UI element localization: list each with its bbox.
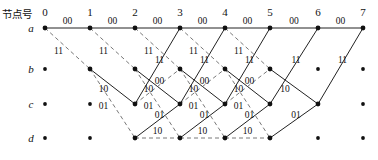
trellis-node-active (361, 26, 366, 31)
trellis-edge (270, 28, 318, 104)
edge-label-00: 00 (155, 76, 165, 86)
trellis-node-active (178, 136, 183, 141)
edge-label-11: 11 (189, 46, 198, 56)
trellis-edge (135, 28, 180, 104)
trellis-node-inactive (43, 102, 47, 106)
trellis-edge (225, 28, 270, 104)
trellis-node-active (223, 102, 228, 107)
edge-label-10: 10 (198, 126, 208, 136)
edge-label-11: 11 (144, 46, 153, 56)
trellis-node-inactive (88, 136, 92, 140)
trellis-node-inactive (43, 67, 47, 71)
edge-label-10: 10 (189, 84, 199, 94)
trellis-node-active (43, 26, 48, 31)
trellis-node-inactive (361, 67, 365, 71)
trellis-node-inactive (316, 67, 320, 71)
trellis-node-active (316, 102, 321, 107)
edge-label-01: 01 (189, 101, 199, 111)
edge-label-11: 11 (54, 46, 63, 56)
edge-label-10: 10 (99, 84, 109, 94)
trellis-node-active (133, 26, 138, 31)
edge-label-00: 00 (289, 16, 299, 26)
edge-label-00: 00 (198, 16, 208, 26)
column-number-3: 3 (177, 6, 183, 18)
edge-label-10: 10 (234, 84, 244, 94)
trellis-node-active (268, 136, 273, 141)
edge-label-10: 10 (243, 126, 253, 136)
column-number-1: 1 (87, 6, 93, 18)
trellis-node-active (88, 67, 93, 72)
edge-label-01: 01 (234, 101, 244, 111)
edge-label-01: 01 (291, 110, 301, 120)
edge-label-11: 11 (155, 55, 164, 65)
trellis-node-active (133, 102, 138, 107)
column-number-4: 4 (222, 6, 228, 18)
edge-label-01: 01 (144, 101, 154, 111)
column-number-7: 7 (360, 6, 366, 18)
edge-label-00: 00 (243, 16, 253, 26)
edge-label-00: 00 (336, 16, 346, 26)
trellis-edge (90, 28, 135, 69)
column-number-2: 2 (132, 6, 138, 18)
edge-label-10: 10 (144, 84, 154, 94)
trellis-edge (318, 28, 363, 104)
trellis-node-active (268, 26, 273, 31)
edge-label-11: 11 (245, 55, 254, 65)
trellis-edge (45, 28, 90, 69)
trellis-node-active (178, 102, 183, 107)
edge-label-00: 00 (245, 76, 255, 86)
edge-label-11: 11 (291, 55, 300, 65)
edge-label-10: 10 (280, 84, 290, 94)
trellis-node-inactive (43, 136, 47, 140)
trellis-node-inactive (361, 102, 365, 106)
state-label-a: a (28, 22, 34, 34)
trellis-node-inactive (316, 136, 320, 140)
edge-label-01: 01 (200, 110, 210, 120)
trellis-node-active (133, 136, 138, 141)
trellis-node-active (88, 26, 93, 31)
trellis-svg-canvas (0, 0, 378, 160)
edge-label-01: 01 (155, 110, 165, 120)
trellis-node-active (223, 67, 228, 72)
edge-label-00: 00 (108, 16, 118, 26)
trellis-node-active (223, 136, 228, 141)
edge-label-01: 01 (245, 110, 255, 120)
state-label-b: b (28, 63, 34, 75)
trellis-node-active (268, 102, 273, 107)
trellis-edge (270, 69, 318, 104)
column-number-6: 6 (315, 6, 321, 18)
edge-label-00: 00 (63, 16, 73, 26)
edge-label-11: 11 (200, 55, 209, 65)
column-number-5: 5 (267, 6, 273, 18)
trellis-node-active (133, 67, 138, 72)
edge-label-11: 11 (234, 46, 243, 56)
edge-label-00: 00 (200, 76, 210, 86)
trellis-edge (90, 69, 135, 138)
trellis-node-inactive (361, 136, 365, 140)
state-label-c: c (29, 98, 34, 110)
edge-label-00: 00 (153, 16, 163, 26)
trellis-node-active (178, 26, 183, 31)
trellis-node-inactive (88, 102, 92, 106)
trellis-node-active (178, 67, 183, 72)
trellis-edge (180, 28, 225, 104)
edge-label-10: 10 (153, 126, 163, 136)
edge-label-01: 01 (99, 101, 109, 111)
edge-label-11: 11 (99, 46, 108, 56)
column-number-0: 0 (42, 6, 48, 18)
trellis-node-active (268, 67, 273, 72)
edge-label-11: 11 (338, 55, 347, 65)
state-label-d: d (28, 132, 34, 144)
trellis-edge (90, 69, 135, 104)
trellis-node-active (316, 26, 321, 31)
trellis-diagram-figure: 节点号 01234567 abcd 0011001110010011100111… (0, 0, 378, 160)
trellis-node-active (223, 26, 228, 31)
